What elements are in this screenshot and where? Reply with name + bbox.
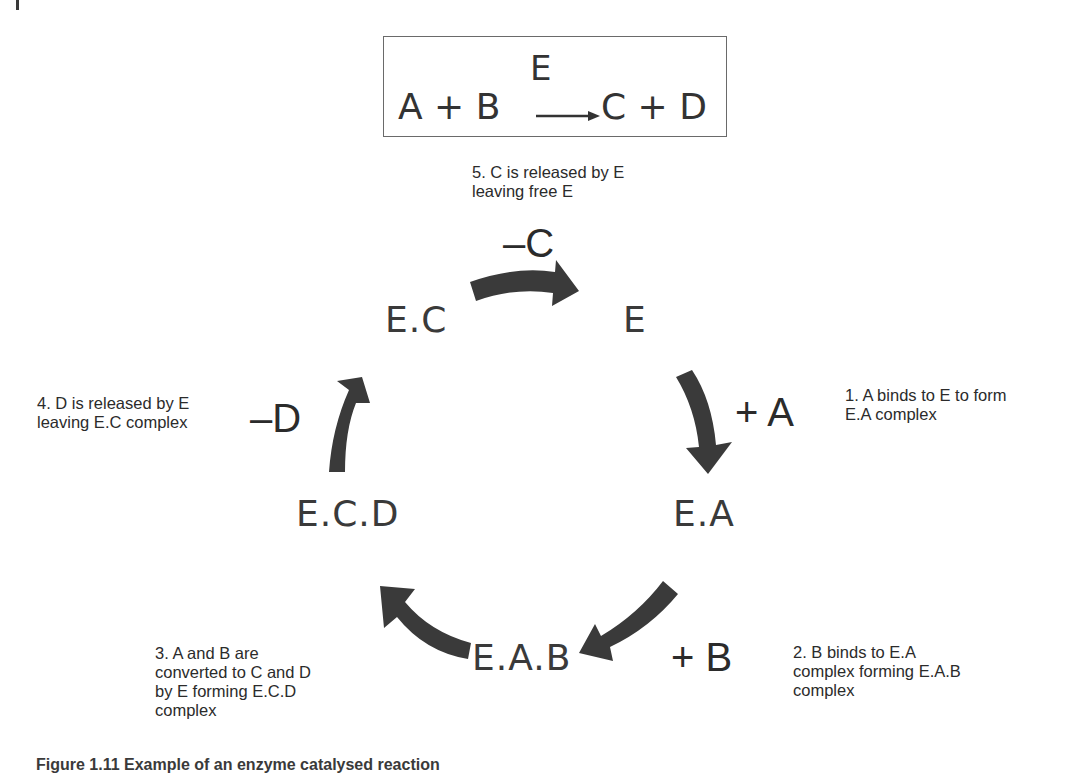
species-e-c: E.C bbox=[385, 302, 447, 338]
species-e-c-d: E.C.D bbox=[296, 496, 400, 532]
plus-b-label: + B bbox=[671, 637, 732, 677]
species-e-a: E.A bbox=[673, 496, 735, 532]
curved-arrow-down-icon bbox=[676, 370, 732, 474]
step-1-text: 1. A binds to E to form E.A complex bbox=[845, 386, 1006, 424]
curved-arrow-down-left-icon bbox=[579, 581, 678, 661]
figure-caption: Figure 1.11 Example of an enzyme catalys… bbox=[36, 756, 440, 774]
species-e: E bbox=[623, 302, 647, 338]
minus-d-label: –D bbox=[250, 398, 301, 438]
step-2-text: 2. B binds to E.A complex forming E.A.B … bbox=[793, 643, 961, 700]
plus-a-label: + A bbox=[735, 392, 794, 432]
minus-c-label: –C bbox=[503, 223, 554, 263]
step-4-text: 4. D is released by E leaving E.C comple… bbox=[37, 394, 189, 432]
species-e-a-b: E.A.B bbox=[472, 640, 571, 676]
curved-arrow-up-icon bbox=[329, 377, 370, 472]
step-3-text: 3. A and B are converted to C and D by E… bbox=[155, 644, 311, 720]
curved-arrow-right-icon bbox=[470, 260, 579, 306]
curved-arrow-up-left-icon bbox=[380, 586, 471, 659]
